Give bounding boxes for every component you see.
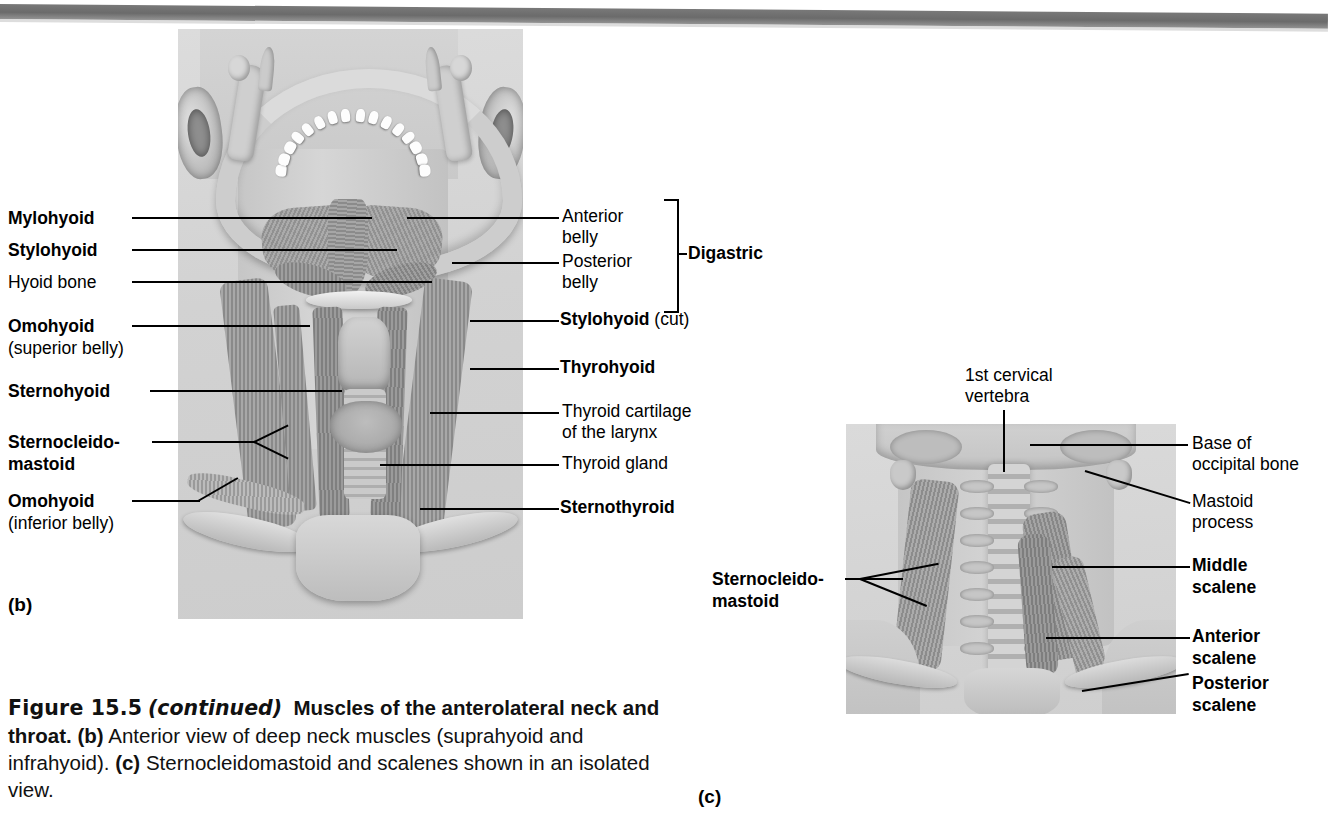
tooth (341, 108, 351, 122)
leader-c-scm-main (845, 578, 903, 580)
label-omohyoid-inferior: Omohyoid (8, 491, 95, 512)
label-thyrohyoid: Thyrohyoid (560, 357, 655, 378)
leader-omohyoid-superior (132, 325, 310, 327)
panel-b-illustration (178, 29, 523, 619)
leader-stylohyoid (132, 249, 397, 251)
label-stylohyoid: Stylohyoid (8, 240, 97, 261)
label-base-of-occipital-bone: Base of (1192, 433, 1251, 454)
leader-base-of-occipital-bone (1030, 444, 1188, 446)
cervical-transverse-process (960, 480, 994, 493)
label-anterior-belly-line2: belly (562, 227, 598, 248)
leader-omohyoid-inferior (132, 500, 200, 502)
cervical-transverse-process (960, 642, 994, 655)
label-sternocleidomastoid: Sternocleido- (8, 432, 120, 453)
thyroid-gland-shape (330, 401, 402, 453)
label-mastoid-process: Mastoid (1192, 491, 1253, 512)
leader-1st-cervical-vertebra (1003, 410, 1005, 472)
leader-thyrohyoid (470, 368, 559, 370)
label-digastric: Digastric (688, 243, 763, 264)
label-posterior-belly: Posterior (562, 251, 632, 272)
c-sternum-shape (964, 668, 1060, 714)
caption-b-marker: (b) (77, 724, 103, 747)
panel-b-marker: (b) (8, 594, 32, 616)
leader-thyroid-gland (380, 464, 559, 466)
label-mylohyoid: Mylohyoid (8, 208, 95, 229)
leader-middle-scalene (1052, 566, 1190, 568)
c-occipital-right (1060, 430, 1132, 464)
label-middle-scalene-line2: scalene (1192, 577, 1256, 598)
label-posterior-scalene: Posterior (1192, 673, 1269, 694)
label-omohyoid-superior: Omohyoid (8, 316, 95, 337)
label-c-sternocleidomastoid-line2: mastoid (712, 591, 779, 612)
label-omohyoid-inferior-sub: (inferior belly) (8, 513, 114, 534)
leader-anterior-belly (407, 217, 559, 219)
digastric-bracket (664, 199, 679, 313)
label-thyroid-cartilage-line2: of the larynx (562, 422, 657, 443)
cervical-transverse-process (960, 615, 994, 628)
leader-scm-main (152, 441, 254, 443)
condyle-left (228, 55, 250, 81)
label-1st-cervical-vertebra-line2: vertebra (965, 386, 1029, 407)
leader-hyoid-bone (132, 281, 432, 283)
leader-mylohyoid (132, 217, 372, 219)
label-thyroid-cartilage: Thyroid cartilage (562, 401, 691, 422)
tooth (326, 110, 338, 125)
cervical-transverse-process (960, 561, 994, 574)
condyle-right (450, 55, 472, 81)
caption-figure-number: Figure 15.5 (8, 696, 142, 720)
leader-sternohyoid (150, 390, 342, 392)
leader-posterior-belly (452, 262, 559, 264)
label-sternothyroid: Sternothyroid (560, 497, 675, 518)
caption-c-marker: (c) (115, 751, 140, 774)
label-anterior-scalene-line2: scalene (1192, 648, 1256, 669)
teeth-row (278, 91, 428, 165)
leader-stylohyoid-cut (470, 320, 559, 322)
label-omohyoid-superior-sub: (superior belly) (8, 338, 124, 359)
label-stylohyoid-cut-suffix: (cut) (649, 309, 689, 329)
digastric-bracket-stem (677, 253, 687, 255)
tooth (380, 114, 394, 130)
thyroid-cartilage-shape (338, 317, 390, 391)
cervical-transverse-process (1024, 480, 1058, 493)
label-anterior-scalene: Anterior (1192, 626, 1260, 647)
cervical-transverse-process (960, 588, 994, 601)
leader-thyroid-cartilage (430, 412, 559, 414)
tooth (312, 114, 326, 130)
figure-caption: Figure 15.5 (continued) Muscles of the a… (8, 694, 668, 803)
label-stylohyoid-cut-bold: Stylohyoid (560, 309, 649, 329)
tooth (368, 110, 380, 125)
label-sternohyoid: Sternohyoid (8, 381, 110, 402)
label-stylohyoid-cut: Stylohyoid (cut) (560, 309, 689, 330)
c-occipital-left (890, 430, 962, 464)
label-posterior-belly-line2: belly (562, 272, 598, 293)
label-mastoid-process-line2: process (1192, 512, 1253, 533)
label-hyoid-bone: Hyoid bone (8, 272, 97, 293)
figure-page: Mylohyoid Stylohyoid Hyoid bone Omohyoid… (0, 0, 1328, 821)
leader-anterior-scalene (1046, 637, 1190, 639)
leader-sternothyroid (420, 508, 559, 510)
tooth (355, 108, 365, 122)
label-middle-scalene: Middle (1192, 555, 1247, 576)
label-base-of-occipital-bone-line2: occipital bone (1192, 454, 1299, 475)
label-sternocleidomastoid-line2: mastoid (8, 454, 75, 475)
caption-continued: (continued) (148, 696, 282, 720)
label-anterior-belly: Anterior (562, 206, 623, 227)
panel-c-marker: (c) (698, 786, 721, 808)
label-thyroid-gland: Thyroid gland (562, 453, 668, 474)
sternum-shape (296, 515, 420, 601)
cervical-transverse-process (960, 507, 994, 520)
label-posterior-scalene-line2: scalene (1192, 695, 1256, 716)
cervical-transverse-process (960, 534, 994, 547)
label-c-sternocleidomastoid: Sternocleido- (712, 569, 824, 590)
panel-c-illustration (846, 424, 1176, 714)
label-1st-cervical-vertebra: 1st cervical (965, 365, 1053, 386)
